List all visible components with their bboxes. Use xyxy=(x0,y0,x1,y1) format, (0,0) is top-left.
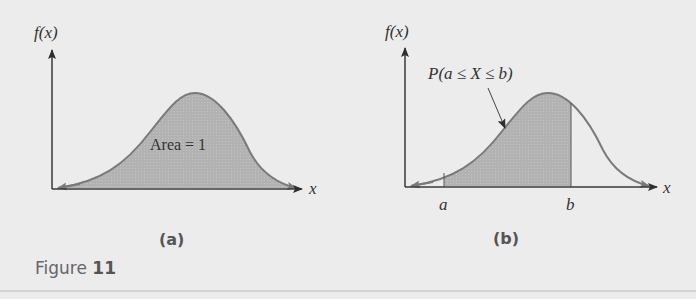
curve-left-tail-arrow xyxy=(411,182,433,186)
y-axis-label: f(x) xyxy=(385,22,409,41)
tick-label-b: b xyxy=(566,195,575,214)
x-axis-label: x xyxy=(308,179,317,198)
panel-label-a: (a) xyxy=(159,230,184,249)
figure-caption: Figure 11 xyxy=(35,258,116,278)
panel-a: f(x) x Area = 1 (a) xyxy=(34,23,317,249)
caption-number: 11 xyxy=(92,258,116,278)
shaded-area-a-to-b xyxy=(411,93,649,186)
caption-prefix: Figure xyxy=(35,258,87,278)
panel-label-b: (b) xyxy=(493,229,519,248)
y-axis-label: f(x) xyxy=(34,23,58,42)
x-axis-label: x xyxy=(662,178,671,197)
tick-label-a: a xyxy=(439,195,448,214)
probability-annotation: P(a ≤ X ≤ b) xyxy=(427,64,513,83)
figure-diagram: f(x) x Area = 1 (a) f(x) x P(a ≤ X ≤ b) … xyxy=(0,0,696,299)
annotation-pointer xyxy=(488,88,505,128)
panel-b: f(x) x P(a ≤ X ≤ b) a b (b) xyxy=(385,22,671,248)
area-annotation: Area = 1 xyxy=(150,136,206,153)
